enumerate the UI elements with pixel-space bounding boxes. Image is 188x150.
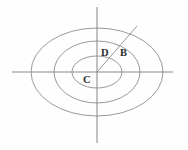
label-c: C bbox=[83, 74, 91, 85]
label-b: B bbox=[120, 47, 127, 58]
ellipse-diagram-figure: • · •· • ·· • · •·• · • ·· • · • ·• ·• D… bbox=[0, 0, 188, 150]
diagram-canvas: D B C bbox=[0, 0, 188, 150]
label-d: D bbox=[101, 47, 109, 58]
